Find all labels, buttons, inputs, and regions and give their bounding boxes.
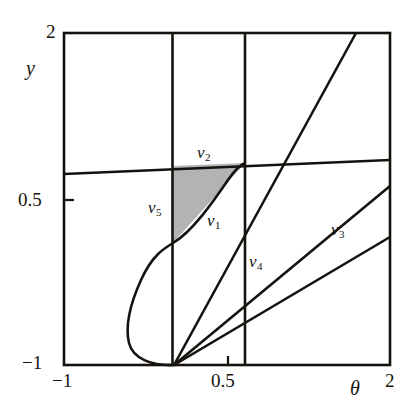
region-label-v2-base: v [197,143,205,162]
region-label-v5-base: v [148,198,156,217]
plot-canvas [0,0,418,418]
region-label-v1: v1 [207,212,220,229]
plot-frame [64,33,390,365]
x-tick-label-minus1: −1 [52,371,72,390]
region-label-v5-sub: 5 [156,206,162,218]
region-label-v4-sub: 4 [257,260,263,272]
y-tick-label-minus1: −1 [22,353,42,372]
shallow-fan-line-lower [174,237,390,365]
region-label-v1-base: v [207,211,215,230]
region-label-v5: v5 [148,199,161,216]
y-axis-label: y [26,58,35,78]
region-label-v3: v3 [331,221,344,238]
x-tick-label-2: 2 [385,371,395,390]
x-tick-label-0.5: 0.5 [211,371,235,390]
region-label-v3-base: v [331,220,339,239]
region-label-v2-sub: 2 [205,151,211,163]
region-label-v1-sub: 1 [215,219,221,231]
x-axis-label: θ [350,378,360,398]
region-label-v4-base: v [249,252,257,271]
shaded-region-v1 [173,163,245,243]
y-tick-label-0.5: 0.5 [18,190,42,209]
y-tick-label-2: 2 [46,22,56,41]
region-label-v3-sub: 3 [339,228,345,240]
region-label-v4: v4 [249,253,262,270]
region-label-v2: v2 [197,144,210,161]
figure-root: y θ 2 0.5 −1 −1 0.5 2 v2 v5 v1 v4 v3 [0,0,418,418]
